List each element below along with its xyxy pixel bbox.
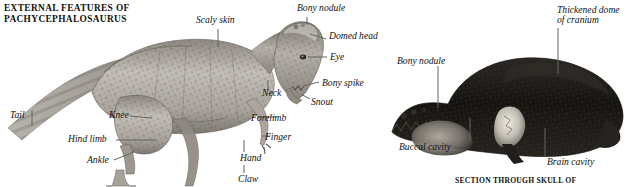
label-bony-spike: Bony spike	[322, 78, 364, 88]
label-forelimb: Forelimb	[251, 113, 286, 123]
label-neck: Neck	[262, 88, 281, 98]
label-hind-limb: Hind limb	[68, 134, 107, 144]
label-knee: Knee	[109, 110, 129, 120]
body-illustration	[8, 22, 324, 186]
label-thickened-dome: Thickened dome of cranium	[557, 5, 620, 26]
label-scaly-skin: Scaly skin	[196, 15, 235, 25]
label-snout: Snout	[311, 97, 333, 107]
label-finger: Finger	[265, 132, 291, 142]
page-title: EXTERNAL FEATURES OF PACHYCEPHALOSAURUS	[4, 3, 130, 25]
label-brain-cavity: Brain cavity	[547, 157, 594, 167]
label-bony-nodule-1: Bony nodule	[297, 3, 345, 13]
skull-section-caption: SECTION THROUGH SKULL OF	[455, 176, 576, 185]
label-ankle: Ankle	[87, 155, 109, 165]
label-bony-nodule-2: Bony nodule	[397, 56, 445, 66]
label-tail: Tail	[10, 110, 25, 120]
label-hand: Hand	[240, 153, 261, 163]
illustration-plate: EXTERNAL FEATURES OF PACHYCEPHALOSAURUS …	[0, 0, 639, 187]
label-eye: Eye	[330, 52, 344, 62]
label-claw: Claw	[238, 174, 258, 184]
label-buccal-cavity: Buccal cavity	[399, 142, 451, 152]
label-domed-head: Domed head	[329, 31, 378, 41]
